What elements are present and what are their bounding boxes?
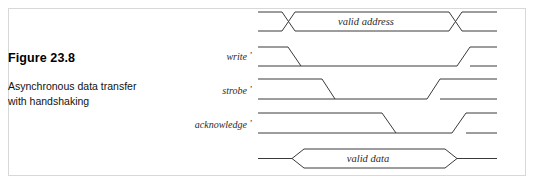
caption-line-2: with handshaking [8, 95, 89, 107]
figure-caption-block: Figure 23.8 Asynchronous data transfer w… [8, 52, 198, 109]
caption-line-1: Asynchronous data transfer [8, 80, 136, 92]
figure-caption-text: Asynchronous data transfer with handshak… [8, 79, 198, 109]
figure-number: Figure 23.8 [8, 52, 198, 66]
